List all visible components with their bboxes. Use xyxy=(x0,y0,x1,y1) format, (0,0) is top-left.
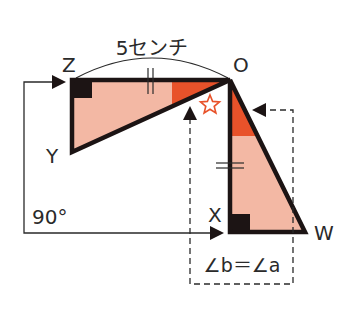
right-angle-mark-z xyxy=(72,80,92,98)
point-label-y: Y xyxy=(45,144,59,168)
equality-label: ∠b＝∠a xyxy=(204,254,281,276)
triangle-oxw xyxy=(216,80,305,232)
right-angle-mark-x xyxy=(230,214,250,232)
point-label-x: X xyxy=(208,203,222,227)
arrow-head-to-z xyxy=(52,75,66,89)
length-arc xyxy=(76,58,228,78)
point-label-z: Z xyxy=(62,53,76,77)
rotation-label: 90° xyxy=(32,205,67,229)
star-icon xyxy=(201,95,220,113)
point-label-o: O xyxy=(233,53,249,77)
arrow-head-up xyxy=(183,106,197,120)
point-label-w: W xyxy=(314,221,334,245)
triangle-zoy xyxy=(72,68,230,152)
arrow-head-to-x xyxy=(210,226,224,240)
length-label: 5センチ xyxy=(116,36,189,60)
diagram-canvas: 5センチ Z O Y X W 90° xyxy=(0,0,362,310)
arrow-head-left xyxy=(252,103,266,117)
